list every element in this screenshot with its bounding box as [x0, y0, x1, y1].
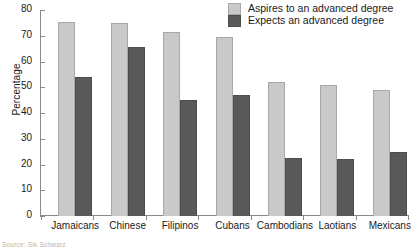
- bar-group: [163, 10, 197, 216]
- bar-laotians-expects: [337, 159, 354, 216]
- legend-label-aspires: Aspires to an advanced degree: [248, 2, 393, 14]
- x-label-chinese: Chinese: [109, 220, 146, 231]
- bar-group: [216, 10, 250, 216]
- bar-filipinos-expects: [180, 100, 197, 216]
- bar-chinese-expects: [128, 47, 145, 216]
- x-label-jamaicans: Jamaicans: [51, 220, 99, 231]
- x-label-cubans: Cubans: [215, 220, 249, 231]
- y-tick-label: 30: [21, 132, 32, 143]
- bar-group: [373, 10, 407, 216]
- plot-area: 01020304050607080: [40, 10, 408, 216]
- bar-filipinos-aspires: [163, 32, 180, 216]
- bar-cambodians-expects: [285, 158, 302, 216]
- x-label-cambodians: Cambodians: [257, 220, 313, 231]
- bar-laotians-aspires: [320, 85, 337, 216]
- x-axis-ticks: [41, 215, 408, 216]
- y-tick-label: 20: [21, 158, 32, 169]
- legend-item-expects: Expects an advanced degree: [228, 15, 414, 27]
- y-tick-label: 60: [21, 55, 32, 66]
- y-tick-label: 40: [21, 106, 32, 117]
- y-tick-label: 10: [21, 183, 32, 194]
- bar-group: [111, 10, 145, 216]
- legend-swatch-expects: [228, 15, 241, 27]
- bar-series-container: [41, 10, 408, 216]
- bar-jamaicans-aspires: [58, 22, 75, 216]
- y-tick-label: 80: [21, 3, 32, 14]
- x-axis-labels: JamaicansChineseFilipinosCubansCambodian…: [41, 220, 408, 234]
- y-axis-title: Percentage: [11, 42, 22, 138]
- bar-cubans-aspires: [216, 37, 233, 216]
- bar-mexicans-expects: [390, 152, 407, 216]
- x-label-filipinos: Filipinos: [162, 220, 199, 231]
- bar-group: [58, 10, 92, 216]
- source-note: Source: Sik Schwarz: [2, 241, 66, 248]
- x-label-laotians: Laotians: [318, 220, 356, 231]
- bar-jamaicans-expects: [75, 77, 92, 216]
- bar-chart-figure: Percentage 01020304050607080 JamaicansCh…: [0, 0, 415, 249]
- bar-chinese-aspires: [111, 23, 128, 216]
- y-tick-label: 0: [26, 209, 32, 220]
- bar-cambodians-aspires: [268, 82, 285, 216]
- bar-group: [320, 10, 354, 216]
- y-tick-label: 50: [21, 80, 32, 91]
- x-label-mexicans: Mexicans: [369, 220, 411, 231]
- legend-swatch-aspires: [228, 3, 241, 15]
- bar-cubans-expects: [233, 95, 250, 216]
- bar-mexicans-aspires: [373, 90, 390, 216]
- chart-legend: Aspires to an advanced degree Expects an…: [228, 3, 414, 27]
- legend-label-expects: Expects an advanced degree: [248, 14, 384, 26]
- y-tick-label: 70: [21, 29, 32, 40]
- bar-group: [268, 10, 302, 216]
